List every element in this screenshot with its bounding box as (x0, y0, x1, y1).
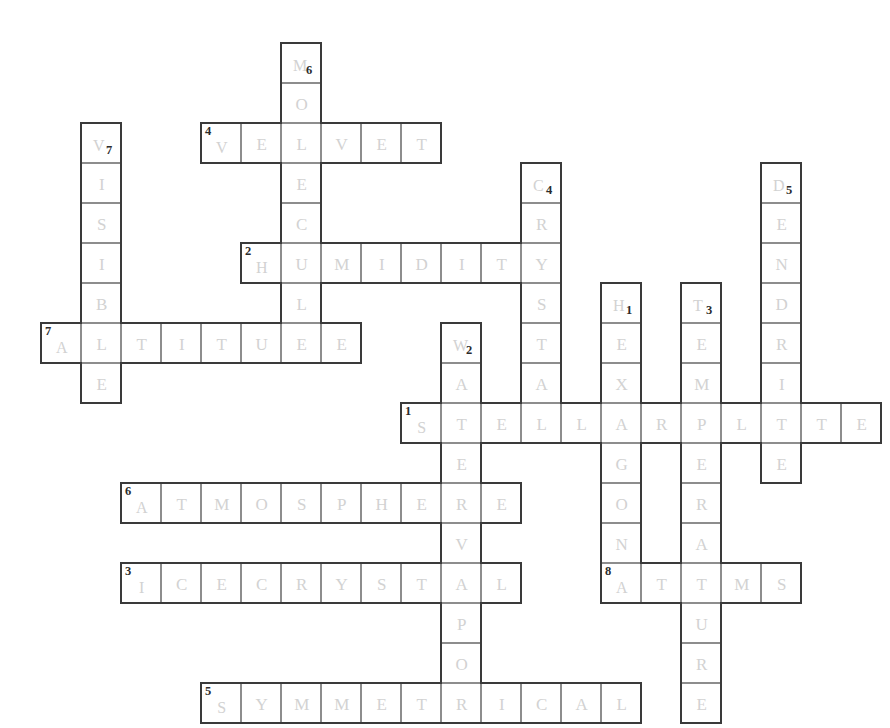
crossword-cell[interactable]: R (441, 683, 481, 723)
crossword-cell[interactable]: D (761, 283, 801, 323)
crossword-cell[interactable]: V4 (201, 123, 241, 163)
crossword-cell[interactable]: O (601, 483, 641, 523)
crossword-cell[interactable]: V (441, 523, 481, 563)
crossword-cell[interactable]: M (201, 483, 241, 523)
crossword-cell[interactable]: E (481, 483, 521, 523)
crossword-cell[interactable]: U (281, 243, 321, 283)
crossword-cell[interactable]: E (681, 323, 721, 363)
crossword-cell[interactable]: I3 (121, 563, 161, 603)
crossword-cell[interactable]: G (601, 443, 641, 483)
crossword-cell[interactable]: R (281, 563, 321, 603)
crossword-cell[interactable]: R (441, 483, 481, 523)
crossword-cell[interactable]: R (681, 643, 721, 683)
crossword-cell[interactable]: R (521, 203, 561, 243)
crossword-cell[interactable]: A (441, 563, 481, 603)
crossword-cell[interactable]: R (761, 323, 801, 363)
crossword-cell[interactable]: T (441, 403, 481, 443)
crossword-cell[interactable]: O (241, 483, 281, 523)
crossword-cell[interactable]: B (81, 283, 121, 323)
crossword-cell[interactable]: L (481, 563, 521, 603)
crossword-cell[interactable]: S (521, 283, 561, 323)
crossword-cell[interactable]: C (241, 563, 281, 603)
crossword-cell[interactable]: C (521, 683, 561, 723)
crossword-cell[interactable]: E (361, 683, 401, 723)
crossword-cell[interactable]: M (321, 683, 361, 723)
crossword-cell[interactable]: T (201, 323, 241, 363)
crossword-cell[interactable]: T (401, 563, 441, 603)
crossword-cell[interactable]: E (401, 483, 441, 523)
crossword-cell[interactable]: L (601, 683, 641, 723)
crossword-cell[interactable]: P (321, 483, 361, 523)
crossword-cell[interactable]: M (681, 363, 721, 403)
crossword-cell[interactable]: O (281, 83, 321, 123)
crossword-cell[interactable]: Y (241, 683, 281, 723)
crossword-cell[interactable]: E (761, 443, 801, 483)
crossword-cell[interactable]: M (281, 683, 321, 723)
crossword-cell[interactable]: S1 (401, 403, 441, 443)
crossword-cell[interactable]: T3 (681, 283, 721, 323)
crossword-cell[interactable]: I (761, 363, 801, 403)
crossword-cell[interactable]: E (481, 403, 521, 443)
crossword-cell[interactable]: C (281, 203, 321, 243)
crossword-cell[interactable]: E (81, 363, 121, 403)
crossword-cell[interactable]: E (601, 323, 641, 363)
crossword-cell[interactable]: C4 (521, 163, 561, 203)
crossword-cell[interactable]: R (641, 403, 681, 443)
crossword-cell[interactable]: E (241, 123, 281, 163)
crossword-cell[interactable]: E (761, 203, 801, 243)
crossword-cell[interactable]: E (681, 443, 721, 483)
crossword-cell[interactable]: H2 (241, 243, 281, 283)
crossword-cell[interactable]: A (521, 363, 561, 403)
crossword-cell[interactable]: T (761, 403, 801, 443)
crossword-cell[interactable]: D5 (761, 163, 801, 203)
crossword-cell[interactable]: O (441, 643, 481, 683)
crossword-cell[interactable]: T (681, 563, 721, 603)
crossword-cell[interactable]: E (281, 163, 321, 203)
crossword-cell[interactable]: N (601, 523, 641, 563)
crossword-cell[interactable]: S (281, 483, 321, 523)
crossword-cell[interactable]: I (441, 243, 481, 283)
crossword-cell[interactable]: L (281, 123, 321, 163)
crossword-cell[interactable]: I (481, 683, 521, 723)
crossword-cell[interactable]: V7 (81, 123, 121, 163)
crossword-cell[interactable]: P (441, 603, 481, 643)
crossword-cell[interactable]: I (81, 243, 121, 283)
crossword-cell[interactable]: S (81, 203, 121, 243)
crossword-cell[interactable]: I (161, 323, 201, 363)
crossword-cell[interactable]: L (561, 403, 601, 443)
crossword-cell[interactable]: E (361, 123, 401, 163)
crossword-cell[interactable]: A8 (601, 563, 641, 603)
crossword-cell[interactable]: C (161, 563, 201, 603)
crossword-cell[interactable]: U (681, 603, 721, 643)
crossword-cell[interactable]: N (761, 243, 801, 283)
crossword-cell[interactable]: T (121, 323, 161, 363)
crossword-cell[interactable]: A (561, 683, 601, 723)
crossword-cell[interactable]: Y (321, 563, 361, 603)
crossword-cell[interactable]: A (601, 403, 641, 443)
crossword-cell[interactable]: A6 (121, 483, 161, 523)
crossword-cell[interactable]: T (401, 123, 441, 163)
crossword-cell[interactable]: A (441, 363, 481, 403)
crossword-cell[interactable]: E (281, 323, 321, 363)
crossword-cell[interactable]: L (81, 323, 121, 363)
crossword-cell[interactable]: E (201, 563, 241, 603)
crossword-cell[interactable]: A7 (41, 323, 81, 363)
crossword-cell[interactable]: S (361, 563, 401, 603)
crossword-cell[interactable]: E (321, 323, 361, 363)
crossword-cell[interactable]: H1 (601, 283, 641, 323)
crossword-cell[interactable]: E (841, 403, 881, 443)
crossword-cell[interactable]: D (401, 243, 441, 283)
crossword-cell[interactable]: M (721, 563, 761, 603)
crossword-cell[interactable]: T (641, 563, 681, 603)
crossword-cell[interactable]: P (681, 403, 721, 443)
crossword-cell[interactable]: S5 (201, 683, 241, 723)
crossword-cell[interactable]: I (81, 163, 121, 203)
crossword-cell[interactable]: H (361, 483, 401, 523)
crossword-cell[interactable]: T (161, 483, 201, 523)
crossword-cell[interactable]: T (401, 683, 441, 723)
crossword-cell[interactable]: L (281, 283, 321, 323)
crossword-cell[interactable]: U (241, 323, 281, 363)
crossword-cell[interactable]: E (441, 443, 481, 483)
crossword-cell[interactable]: T (521, 323, 561, 363)
crossword-cell[interactable]: S (761, 563, 801, 603)
